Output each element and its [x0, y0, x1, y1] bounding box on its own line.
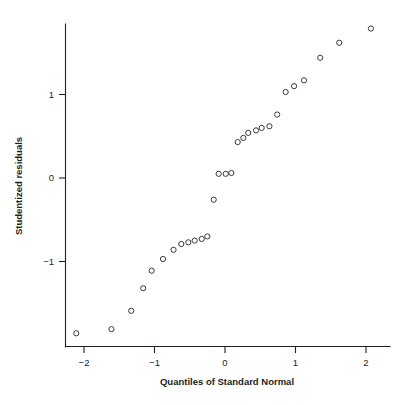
data-point: [192, 238, 197, 243]
data-point: [275, 112, 280, 117]
data-point: [229, 170, 234, 175]
y-axis-title: Studentized residuals: [13, 137, 24, 235]
data-point: [253, 128, 258, 133]
data-point: [186, 240, 191, 245]
data-point-series: [74, 26, 374, 336]
x-axis-title: Quantiles of Standard Normal: [160, 376, 294, 387]
data-point: [160, 256, 165, 261]
data-point: [216, 171, 221, 176]
data-point: [141, 286, 146, 291]
y-axis-ticks: 10−1: [43, 89, 65, 267]
data-point: [223, 171, 228, 176]
data-point: [337, 40, 342, 45]
y-tick-label: 1: [49, 89, 54, 100]
scatter-plot-canvas: −2−1012 10−1 Quantiles of Standard Norma…: [0, 0, 401, 405]
data-point: [129, 308, 134, 313]
x-tick-label: −2: [79, 357, 90, 368]
x-axis-ticks: −2−1012: [79, 347, 369, 368]
data-point: [267, 124, 272, 129]
data-point: [205, 234, 210, 239]
data-point: [211, 197, 216, 202]
x-tick-label: 1: [293, 357, 298, 368]
data-point: [74, 331, 79, 336]
data-point: [199, 236, 204, 241]
data-point: [318, 55, 323, 60]
data-point: [241, 135, 246, 140]
x-tick-label: 0: [222, 357, 227, 368]
data-point: [149, 268, 154, 273]
y-tick-label: 0: [49, 172, 54, 183]
x-tick-label: −1: [149, 357, 160, 368]
data-point: [259, 125, 264, 130]
y-tick-label: −1: [43, 256, 54, 267]
data-point: [235, 139, 240, 144]
data-point: [301, 78, 306, 83]
x-tick-label: 2: [363, 357, 368, 368]
data-point: [246, 130, 251, 135]
data-point: [109, 327, 114, 332]
data-point: [368, 26, 373, 31]
data-point: [171, 247, 176, 252]
qq-plot-figure: −2−1012 10−1 Quantiles of Standard Norma…: [0, 0, 401, 405]
data-point: [179, 241, 184, 246]
data-point: [291, 84, 296, 89]
data-point: [283, 89, 288, 94]
